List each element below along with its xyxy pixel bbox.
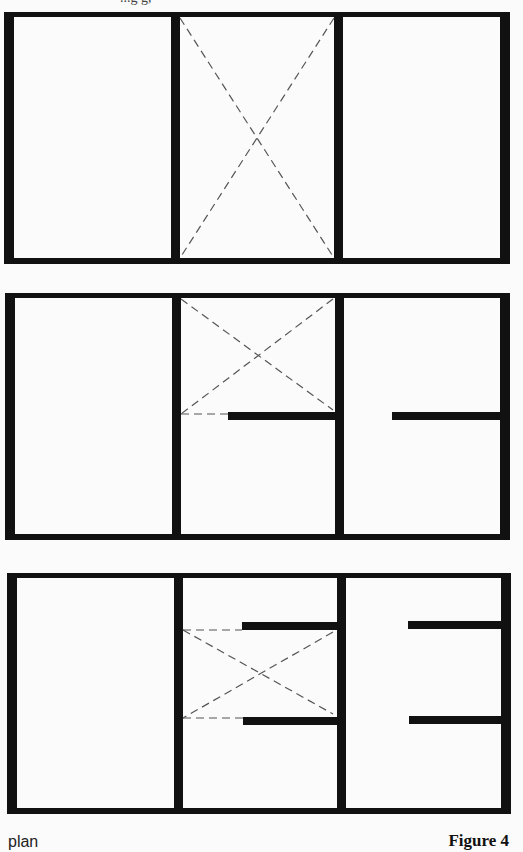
void-diagonal-1 [183, 630, 333, 714]
interior-wall-left [174, 573, 183, 814]
outer-wall-right [501, 573, 511, 814]
interior-wall-left [171, 12, 180, 264]
floor-plan-diagram [0, 0, 523, 852]
outer-wall-top [5, 293, 510, 298]
outer-wall-left [5, 293, 15, 540]
wall-stub-right [392, 412, 505, 420]
outer-wall-bottom [5, 534, 510, 540]
interior-wall-right [337, 573, 346, 814]
wall-stub-right-upper [408, 621, 505, 629]
panel-3 [7, 573, 511, 814]
outer-wall-right [500, 12, 510, 264]
panel-2 [5, 293, 510, 540]
panel-1 [4, 12, 510, 264]
interior-wall-left [172, 293, 181, 540]
wall-stub-middle-upper [242, 622, 339, 630]
outer-wall-bottom [7, 808, 510, 814]
void-diagonal-2 [183, 632, 333, 718]
caption-plan: plan [8, 833, 38, 851]
caption-figure-number: Figure 4 [448, 831, 509, 851]
outer-wall-left [7, 573, 17, 814]
outer-wall-left [4, 12, 14, 264]
wall-stub-middle-lower [243, 717, 339, 725]
wall-stub-middle [228, 412, 339, 420]
outer-wall-top [7, 573, 510, 578]
outer-wall-top [4, 12, 510, 17]
wall-stub-right-lower [409, 716, 506, 724]
outer-wall-bottom [4, 258, 510, 264]
interior-wall-right [334, 12, 343, 264]
